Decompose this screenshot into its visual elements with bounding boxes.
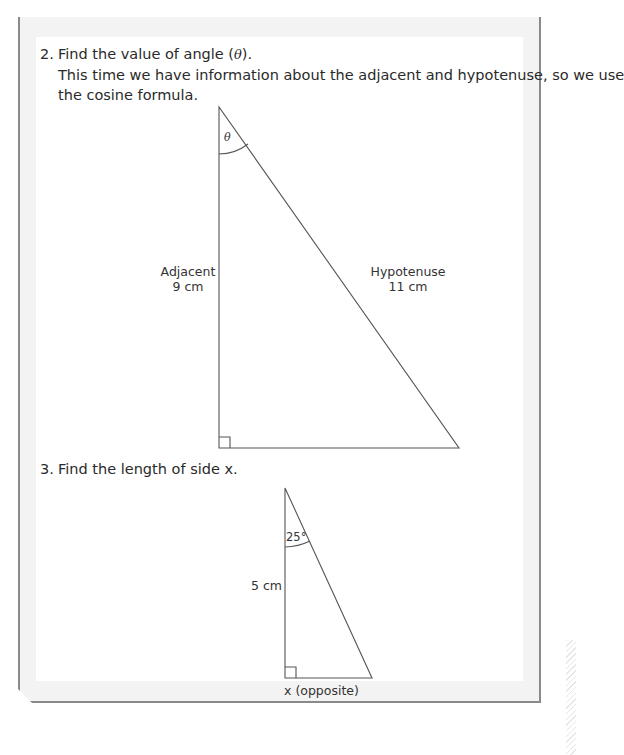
- hypotenuse-label: Hypotenuse 11 cm: [370, 264, 446, 294]
- adjacent-length: 9 cm: [160, 279, 216, 294]
- hypotenuse-length: 11 cm: [370, 279, 446, 294]
- question-2: 2.Find the value of angle (θ). This time…: [40, 44, 624, 105]
- page-edge-hatching: [566, 640, 576, 755]
- question-2-explanation-line-2: the cosine formula.: [40, 85, 624, 105]
- side-5cm-label: 5 cm: [248, 578, 282, 593]
- question-2-prompt-text: Find the value of angle (: [58, 46, 234, 62]
- question-3-number: 3.: [40, 459, 58, 479]
- x-symbol: x: [224, 461, 233, 477]
- question-2-number: 2.: [40, 44, 58, 64]
- question-3-prompt-end: .: [233, 461, 238, 477]
- opposite-label: x (opposite): [284, 683, 374, 698]
- theta-symbol: θ: [234, 47, 242, 62]
- question-2-prompt-end: ).: [242, 46, 252, 62]
- angle-25-label: 25°: [286, 530, 306, 544]
- question-3: 3.Find the length of side x.: [40, 459, 238, 479]
- question-3-prompt: 3.Find the length of side x.: [40, 459, 238, 479]
- adjacent-label: Adjacent 9 cm: [160, 264, 216, 294]
- question-3-prompt-text: Find the length of side: [58, 461, 224, 477]
- theta-angle-label: θ: [224, 131, 231, 144]
- hypotenuse-name: Hypotenuse: [370, 264, 446, 279]
- question-2-prompt: 2.Find the value of angle (θ).: [40, 44, 624, 65]
- question-2-explanation-line-1: This time we have information about the …: [40, 65, 624, 85]
- adjacent-name: Adjacent: [160, 264, 216, 279]
- opposite-text: (opposite): [291, 683, 358, 698]
